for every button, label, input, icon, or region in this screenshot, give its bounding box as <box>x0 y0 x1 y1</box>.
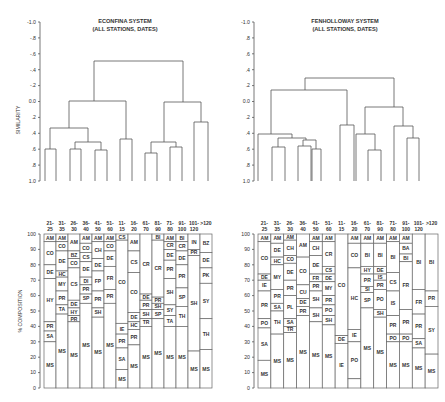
taxon-label: PR <box>47 323 54 329</box>
taxon-label: TH <box>274 319 281 325</box>
taxon-label: SP <box>83 295 90 301</box>
taxon-label: PR <box>325 297 332 303</box>
taxon-label: PR <box>274 293 281 299</box>
size-class-header: 25 <box>47 226 53 232</box>
taxon-label: DE <box>300 299 308 305</box>
size-class-header: 70 <box>365 226 371 232</box>
size-class-header: 60 <box>326 226 332 232</box>
composition-column: AMDEHCMYPRSATHMS <box>271 234 284 388</box>
taxon-label: SP <box>155 311 162 317</box>
composition-column: AMCOHCIEPO <box>348 234 361 388</box>
size-class-header: 30 <box>71 226 77 232</box>
taxon-label: MS <box>154 350 162 356</box>
taxon-label: PO <box>261 320 268 326</box>
taxon-label: DE <box>338 336 346 342</box>
taxon-label: PR <box>119 338 126 344</box>
dendrogram-tick-label: .6 <box>246 51 250 57</box>
taxon-label: AM <box>261 235 269 241</box>
taxon-label: MS <box>389 362 397 368</box>
taxon-label: IS <box>378 274 383 280</box>
taxon-label: SH <box>143 311 150 317</box>
size-class-header: >120 <box>200 220 211 226</box>
taxon-label: SY <box>203 298 210 304</box>
taxon-label: AM <box>94 235 102 241</box>
taxon-label: DE <box>377 267 385 273</box>
taxon-label: MS <box>94 349 102 355</box>
composition-tick-label: 10 <box>244 369 250 375</box>
taxon-label: MS <box>142 354 150 360</box>
taxon-label: BI <box>156 234 162 240</box>
taxon-label: DI <box>84 278 90 284</box>
composition-tick-label: 10 <box>30 369 36 375</box>
composition-column: AMBICSISPRPOMS <box>387 234 400 388</box>
taxon-label: CR <box>142 261 150 267</box>
taxon-label: CH <box>94 247 102 253</box>
taxon-label: IE <box>339 362 344 368</box>
composition-column: AMBZCOCSDEHYPRMS <box>68 234 80 388</box>
taxon-label: PR <box>415 323 422 329</box>
taxon-label: DE <box>83 266 91 272</box>
taxon-label: MS <box>202 366 210 372</box>
composition-column: INPRSHMS <box>188 234 200 388</box>
composition-column: AMCOCSDEDIPRSPMS <box>80 234 92 388</box>
taxon-label: TH <box>179 313 186 319</box>
taxon-label: BA <box>402 245 410 251</box>
taxon-label: CS <box>131 259 139 265</box>
composition-tick-label: 50 <box>30 308 36 314</box>
taxon-label: CO <box>46 250 54 256</box>
size-class-header: 120 <box>190 226 199 232</box>
taxon-label: MS <box>402 362 410 368</box>
taxon-label: TA <box>167 318 174 324</box>
size-class-header: 90 <box>155 226 161 232</box>
taxon-label: FR <box>313 275 320 281</box>
taxon-label: PO <box>402 335 409 341</box>
taxon-label: AM <box>389 235 397 241</box>
size-class-header: 80 <box>390 226 396 232</box>
taxon-label: BI <box>180 235 186 241</box>
composition-tick-label: 80 <box>30 262 36 268</box>
figure: ECONFINA SYSTEM (ALL STATIONS, DATES) -1… <box>0 0 445 402</box>
size-class-header: 15 <box>119 226 125 232</box>
taxon-label: SA <box>415 340 422 346</box>
dendrogram-tick-label: .6 <box>246 146 250 152</box>
taxon-label: PR <box>377 282 384 288</box>
taxon-label: CO <box>130 289 138 295</box>
composition-column: AMCRDEPRSHSYTAMS <box>164 234 176 388</box>
taxon-label: IN <box>192 239 197 245</box>
taxon-label: MS <box>70 352 78 358</box>
composition-tick-label: 100 <box>27 231 36 237</box>
size-class-header: 80 <box>167 226 173 232</box>
taxon-label: SA <box>274 304 281 310</box>
taxon-label: CS <box>71 281 79 287</box>
taxon-label: CH <box>312 245 320 251</box>
taxon-label: HY <box>71 309 79 315</box>
composition-tick-label: 90 <box>30 246 36 252</box>
taxon-label: BZ <box>203 240 210 246</box>
composition-tick-label: 80 <box>244 262 250 268</box>
taxon-label: SY <box>428 327 435 333</box>
dendrogram-tick-label: 1.0 <box>243 178 250 184</box>
taxon-label: CS <box>390 279 398 285</box>
taxon-label: AM <box>58 235 66 241</box>
composition-column: BIPRSYMS <box>425 234 438 388</box>
taxon-label: CO <box>106 243 114 249</box>
dendrogram-tick-label: .4 <box>246 130 250 136</box>
taxon-label: PR <box>107 293 114 299</box>
taxon-label: SY <box>167 307 174 313</box>
taxon-label: MS <box>364 345 372 351</box>
dendrogram-tick-label: -.2 <box>30 82 36 88</box>
taxon-label: MS <box>190 366 198 372</box>
taxon-label: SH <box>325 317 332 323</box>
composition-column: BZDEPKSYTHMS <box>200 234 212 388</box>
dendrogram-tick-label: -.6 <box>30 51 36 57</box>
taxon-label: FR <box>403 282 410 288</box>
composition-segment <box>348 379 361 388</box>
taxon-label: PO <box>351 357 358 363</box>
size-class-header: 60 <box>107 226 113 232</box>
taxon-label: MS <box>274 358 282 364</box>
composition-tick-label: 0 <box>247 385 250 391</box>
taxon-label: DE <box>203 257 211 263</box>
taxon-label: IE <box>352 332 357 338</box>
econfina-dendrogram: ECONFINA SYSTEM (ALL STATIONS, DATES) -1… <box>15 18 208 184</box>
size-class-header: 15 <box>339 226 345 232</box>
